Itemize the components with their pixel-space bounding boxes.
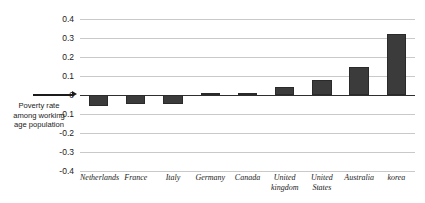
x-label-france: France	[117, 173, 154, 183]
bar-korea	[387, 34, 406, 95]
gridline--0.4	[80, 171, 415, 172]
y-tick-7: -0.3	[0, 147, 76, 157]
bar-series	[80, 19, 415, 171]
y-tick-2: 0.2	[0, 52, 76, 62]
y-tick-6: -0.2	[0, 128, 76, 138]
y-axis-title-line-1: Poverty rate	[3, 101, 75, 111]
y-axis-title-line-3: age population	[3, 120, 75, 130]
bar-united-kingdom	[275, 87, 294, 95]
bar-italy	[163, 95, 182, 104]
x-label-netherlands: Netherlands	[80, 173, 117, 183]
y-axis-title: Poverty rate among working age populatio…	[3, 101, 75, 130]
x-label-united-states: United States	[303, 173, 340, 192]
x-label-australia: Australia	[341, 173, 378, 183]
x-axis-tick-labels: NetherlandsFranceItalyGermanyCanadaUnite…	[80, 173, 415, 203]
chart-figure: 0.4 0.3 0.2 0.1 0 -0.1 -0.2 -0.3 -0.4 Po…	[0, 0, 425, 203]
bar-germany	[201, 93, 220, 95]
plot-area	[80, 19, 415, 171]
y-tick-0: 0.4	[0, 14, 76, 24]
y-tick-1: 0.3	[0, 33, 76, 43]
y-tick-3: 0.1	[0, 71, 76, 81]
bar-france	[126, 95, 145, 104]
x-label-italy: Italy	[154, 173, 191, 183]
x-label-united-kingdom: United kingdom	[266, 173, 303, 192]
bar-netherlands	[89, 95, 108, 106]
x-label-korea: korea	[378, 173, 415, 183]
bar-canada	[238, 93, 257, 95]
y-tick-8: -0.4	[0, 166, 76, 176]
y-axis-title-line-2: among working	[3, 111, 75, 121]
x-label-germany: Germany	[192, 173, 229, 183]
zero-pointer-arrow-icon	[33, 91, 77, 99]
x-label-canada: Canada	[229, 173, 266, 183]
bar-united-states	[312, 80, 331, 95]
bar-australia	[349, 67, 368, 96]
